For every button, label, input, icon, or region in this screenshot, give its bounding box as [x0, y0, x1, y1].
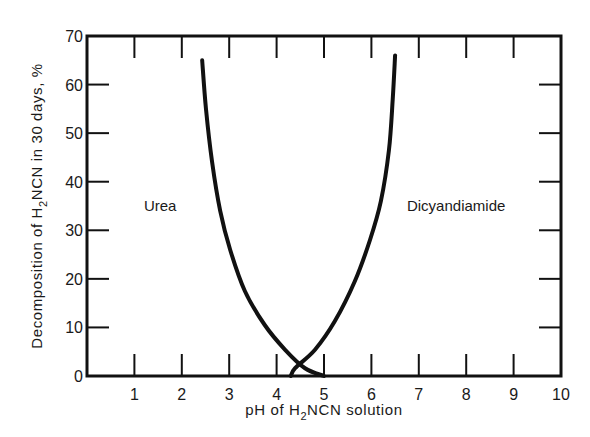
series-label-dicyandiamide: Dicyandiamide — [407, 197, 505, 214]
series-label-urea: Urea — [144, 197, 177, 214]
y-tick-label: 10 — [65, 319, 83, 336]
y-tick-label: 50 — [65, 125, 83, 142]
x-tick-label: 2 — [177, 386, 186, 403]
x-tick-label: 7 — [414, 386, 423, 403]
series-lines — [202, 55, 395, 376]
x-tick-label: 9 — [509, 386, 518, 403]
y-tick-label: 70 — [65, 28, 83, 45]
y-tick-label: 0 — [74, 368, 83, 385]
y-tick-label: 20 — [65, 271, 83, 288]
x-tick-label: 1 — [130, 386, 139, 403]
series-line-dicyandiamide — [291, 55, 395, 376]
y-tick-label: 60 — [65, 77, 83, 94]
y-tick-label: 40 — [65, 174, 83, 191]
series-line-urea — [202, 60, 324, 376]
x-tick-label: 10 — [552, 386, 570, 403]
chart: 12345678910 010203040506070 UreaDicyandi… — [0, 0, 590, 437]
series-labels: UreaDicyandiamide — [144, 197, 505, 214]
y-axis-title: Decomposition of H2NCN in 30 days, % — [28, 63, 49, 348]
y-tick-label: 30 — [65, 222, 83, 239]
x-tick-label: 8 — [462, 386, 471, 403]
y-axis-tick-labels: 010203040506070 — [65, 28, 83, 385]
x-tick-label: 3 — [225, 386, 234, 403]
x-axis-title: pH of H2NCN solution — [245, 401, 402, 422]
